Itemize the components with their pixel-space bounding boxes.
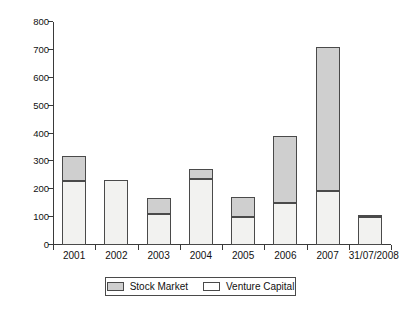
bar-segment-stock-market xyxy=(189,169,213,179)
bar-2006 xyxy=(273,136,297,245)
y-tick-label: 0 xyxy=(19,240,49,249)
bar-segment-stock-market xyxy=(62,156,86,182)
x-tick-label: 2005 xyxy=(222,250,264,261)
bar-segment-stock-market xyxy=(273,136,297,203)
bar-segment-venture-capital xyxy=(273,203,297,245)
y-tick-label: 200 xyxy=(19,184,49,193)
bar-2002 xyxy=(104,180,128,245)
y-tick-label: 500 xyxy=(19,101,49,110)
bar-segment-stock-market xyxy=(316,47,340,191)
x-tick-label: 31/07/2008 xyxy=(349,250,391,261)
legend-label-stock-market: Stock Market xyxy=(130,281,188,292)
legend-swatch-stock-market-icon xyxy=(107,282,124,291)
y-tick-label: 400 xyxy=(19,129,49,138)
legend-label-venture-capital: Venture Capital xyxy=(226,281,294,292)
legend-item-venture-capital: Venture Capital xyxy=(203,281,294,292)
bar-segment-stock-market xyxy=(147,198,171,215)
bar-2001 xyxy=(62,156,86,245)
x-tick-label: 2004 xyxy=(180,250,222,261)
y-tick-label: 300 xyxy=(19,156,49,165)
x-tick-label: 2003 xyxy=(138,250,180,261)
bar-2003 xyxy=(147,198,171,245)
bar-segment-venture-capital xyxy=(189,179,213,245)
bar-segment-stock-market xyxy=(231,197,255,217)
plot-area xyxy=(53,22,391,245)
bar-segment-venture-capital xyxy=(62,181,86,245)
y-tick-label: 700 xyxy=(19,45,49,54)
x-tick-label: 2001 xyxy=(53,250,95,261)
y-axis-line xyxy=(53,22,54,245)
bar-2004 xyxy=(189,169,213,245)
chart-figure: 0100200300400500600700800 20012002200320… xyxy=(0,0,401,315)
bar-2007 xyxy=(316,47,340,245)
legend-item-stock-market: Stock Market xyxy=(107,281,188,292)
bar-segment-venture-capital xyxy=(358,217,382,245)
x-tick-label: 2002 xyxy=(95,250,137,261)
bar-segment-venture-capital xyxy=(147,214,171,245)
chart-legend: Stock Market Venture Capital xyxy=(105,277,296,296)
bar-segment-stock-market xyxy=(358,215,382,217)
bar-2005 xyxy=(231,197,255,245)
x-tick-label: 2007 xyxy=(307,250,349,261)
bar-segment-venture-capital xyxy=(316,191,340,245)
bar-segment-venture-capital xyxy=(104,180,128,245)
y-tick-label: 800 xyxy=(19,17,49,26)
bar-segment-venture-capital xyxy=(231,217,255,245)
legend-swatch-venture-capital-icon xyxy=(203,282,220,291)
y-tick-label: 100 xyxy=(19,212,49,221)
y-tick-label: 600 xyxy=(19,73,49,82)
x-tick-label: 2006 xyxy=(264,250,306,261)
bar-31-07-2008 xyxy=(358,216,382,245)
